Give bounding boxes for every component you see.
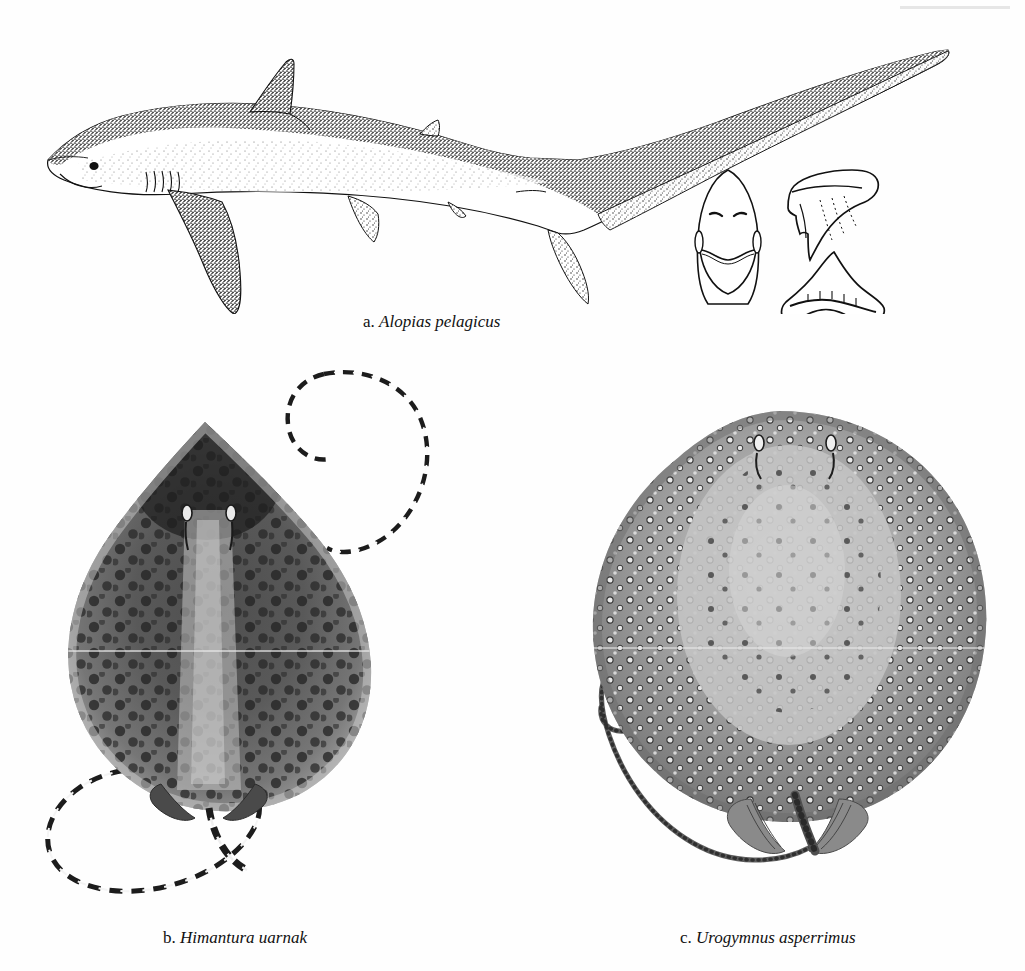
figure-a-alopias-pelagicus	[18, 14, 968, 314]
caption-figure-a: a. Alopias pelagicus	[363, 312, 500, 332]
caption-c-label: c.	[680, 928, 696, 947]
ray-c-disc-group	[565, 395, 1025, 915]
ray-b-tail-tip-arc-highlight	[324, 372, 427, 552]
ray-c-central-highlight	[729, 485, 845, 657]
caption-a-species: Alopias pelagicus	[379, 312, 500, 331]
shark-pectoral-fin	[168, 190, 241, 314]
ray-b-eye-left	[182, 505, 192, 521]
scan-artifact-top-right	[900, 6, 1010, 9]
shark-first-dorsal-fin	[250, 59, 294, 114]
caption-c-species: Urogymnus asperrimus	[696, 928, 855, 947]
ray-c-eye-right	[826, 435, 836, 451]
shark-caudal-upper-lobe	[598, 51, 949, 230]
ray-c-scan-seam	[565, 647, 1025, 649]
ray-c-eye-left	[754, 435, 764, 451]
ventral-head-eye-left	[695, 231, 703, 253]
caption-figure-b: b. Himantura uarnak	[163, 928, 307, 948]
figure-c-urogymnus-asperrimus	[565, 395, 1025, 915]
ventral-head-inset	[695, 170, 761, 304]
shark-pelvic-fin	[348, 196, 379, 242]
ray-b-eye-right	[226, 505, 236, 521]
ray-b-spot-pattern	[35, 360, 515, 910]
caption-a-label: a.	[363, 312, 379, 331]
caption-b-species: Himantura uarnak	[180, 928, 307, 947]
figure-b-himantura-uarnak	[35, 360, 515, 910]
illustration-plate: a. Alopias pelagicus b. Himantura uarnak…	[0, 0, 1025, 971]
caption-figure-c: c. Urogymnus asperrimus	[680, 928, 856, 948]
caption-b-label: b.	[163, 928, 180, 947]
shark-second-dorsal-fin	[420, 120, 440, 136]
upper-tooth-inset	[788, 170, 878, 260]
lower-tooth-inset	[782, 252, 885, 314]
shark-caudal-lower-lobe	[548, 230, 589, 304]
shark-eye	[89, 162, 98, 170]
ray-b-scan-seam	[35, 650, 515, 652]
upper-tooth-outline	[788, 170, 878, 260]
ventral-head-eye-right	[753, 231, 761, 253]
ray-b-disc-group	[35, 360, 515, 910]
ray-b-tail-tip-arc	[288, 372, 428, 552]
